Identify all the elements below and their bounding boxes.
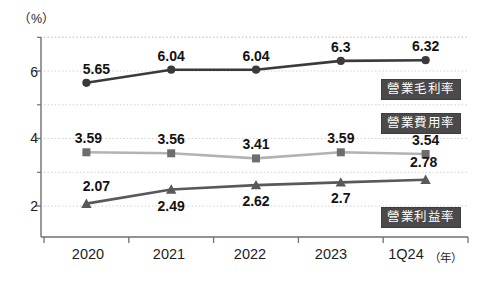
data-point-label: 3.54	[412, 132, 439, 148]
data-point-label: 6.3	[331, 39, 350, 55]
data-point-marker	[337, 148, 345, 156]
data-point-label: 6.32	[412, 38, 439, 54]
data-point-label: 3.56	[158, 131, 185, 147]
legend-item-gross-margin[interactable]: 營業毛利率	[381, 79, 461, 100]
data-point-label: 2.7	[331, 190, 350, 206]
x-axis-tick-2022: 2022	[220, 246, 280, 262]
chart-plot-area	[0, 0, 478, 286]
data-point-label: 3.59	[327, 130, 354, 146]
data-point-label: 3.59	[75, 130, 102, 146]
data-point-marker	[82, 79, 90, 87]
x-axis-tick-1q24: 1Q24	[378, 246, 434, 262]
data-point-marker	[422, 56, 430, 64]
data-point-label: 6.04	[242, 48, 269, 64]
y-axis-tick-4: 4	[16, 130, 38, 146]
data-point-label: 2.49	[158, 198, 185, 214]
y-axis-tick-2: 2	[16, 198, 38, 214]
chart-container: （%） 6 4 2 2020 2021 2022 2023 1Q24 （年） 5…	[0, 0, 478, 286]
y-axis-tick-6: 6	[16, 64, 38, 80]
data-point-marker	[167, 149, 175, 157]
data-point-marker	[252, 154, 260, 162]
data-point-label: 2.78	[410, 154, 437, 170]
data-point-label: 5.65	[83, 61, 110, 77]
x-axis-tick-2020: 2020	[58, 246, 118, 262]
data-point-marker	[252, 66, 260, 74]
data-point-label: 6.04	[158, 48, 185, 64]
data-point-label: 3.41	[242, 136, 269, 152]
data-point-marker	[167, 66, 175, 74]
data-point-label: 2.07	[83, 178, 110, 194]
data-point-label: 2.62	[242, 193, 269, 209]
x-axis-tick-2023: 2023	[301, 246, 361, 262]
legend-item-opex-ratio[interactable]: 營業費用率	[381, 113, 461, 134]
data-point-marker	[82, 148, 90, 156]
data-point-marker	[337, 57, 345, 65]
legend-item-operating-margin[interactable]: 營業利益率	[381, 207, 461, 228]
x-axis-tick-2021: 2021	[139, 246, 199, 262]
x-axis-unit-label: （年）	[429, 249, 462, 265]
data-series-group	[81, 56, 431, 208]
